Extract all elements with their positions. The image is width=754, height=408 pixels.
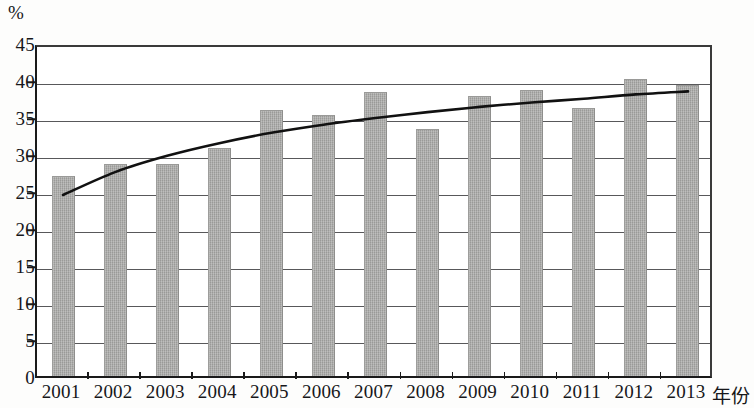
y-axis: 051015202530354045 — [0, 0, 35, 408]
x-axis-title: 年份 — [712, 381, 750, 408]
x-tick-label: 2012 — [614, 381, 653, 403]
x-tick-mark — [452, 372, 454, 379]
trend-line-series — [37, 47, 712, 378]
x-tick-mark — [87, 372, 89, 379]
x-tick-label: 2006 — [302, 381, 341, 403]
x-tick-label: 2008 — [406, 381, 445, 403]
x-axis: 2001200220032004200520062007200820092010… — [0, 381, 754, 408]
x-tick-label: 2001 — [42, 381, 81, 403]
plot-area — [35, 45, 712, 378]
x-tick-label: 2011 — [563, 381, 601, 403]
x-tick-mark — [191, 372, 193, 379]
y-tick-label: 45 — [3, 34, 35, 56]
x-tick-mark — [347, 372, 349, 379]
x-tick-mark — [243, 372, 245, 379]
x-tick-label: 2013 — [667, 381, 706, 403]
x-tick-mark — [400, 372, 402, 379]
bar-chart: % 051015202530354045 2001200220032004200… — [0, 0, 754, 408]
x-tick-label: 2005 — [250, 381, 289, 403]
x-tick-label: 2010 — [510, 381, 549, 403]
x-tick-mark — [556, 372, 558, 379]
x-tick-label: 2004 — [198, 381, 237, 403]
x-tick-mark — [139, 372, 141, 379]
x-tick-label: 2007 — [354, 381, 393, 403]
x-tick-label: 2009 — [458, 381, 497, 403]
x-tick-label: 2002 — [94, 381, 133, 403]
x-tick-mark — [295, 372, 297, 379]
trend-line-path — [63, 91, 688, 195]
x-axis-ticks — [35, 372, 712, 380]
x-tick-mark — [504, 372, 506, 379]
x-tick-mark — [660, 372, 662, 379]
x-tick-mark — [608, 372, 610, 379]
x-tick-label: 2003 — [146, 381, 185, 403]
